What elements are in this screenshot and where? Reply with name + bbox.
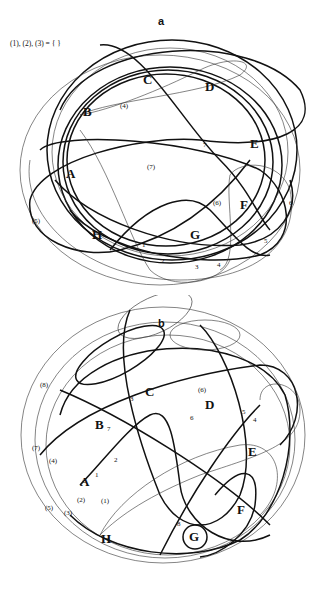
region-label-d: D [205,80,214,93]
panel-b-title: b [158,317,165,329]
dual-label-1: (1) [101,498,109,505]
region-label-h: H [101,532,111,545]
curve-label-2: 2 [114,457,118,464]
curve-label-1: 1 [142,242,146,249]
panel-b-curves [0,295,326,593]
panel-b: b (8) C (6) D 3 5 4 6 B 7 (7) E (4) 2 1 … [0,295,326,593]
panel-a-title: a [158,15,164,27]
curve-label-3: 3 [195,264,199,271]
region-label-g: G [190,228,200,241]
curve-label-5: 5 [242,409,246,416]
curve-label-3: 3 [130,396,134,403]
region-label-b: B [95,418,104,431]
dual-label-7: (7) [32,445,40,452]
region-label-a: A [66,167,75,180]
region-label-g: G [189,530,199,543]
dual-label-7: (7) [147,164,155,171]
region-label-a: A [80,475,89,488]
curve-label-2: 2 [161,258,165,265]
curve-label-7: 7 [203,142,207,149]
dual-label-8: (8) [40,382,48,389]
region-label-c: C [143,73,152,86]
region-label-c: C [145,385,154,398]
dual-label-6: (6) [198,387,206,394]
curve-label-4: 4 [217,262,221,269]
dual-label-5: (5) [32,218,40,225]
region-label-e: E [248,445,257,458]
panel-a: a (1), (2), (3) = { } C D B (4) 7 E (7) … [0,0,326,295]
curve-label-5: 5 [264,238,268,245]
region-label-f: F [240,198,248,211]
curve-label-8: 8 [177,521,181,528]
region-label-d: D [205,398,214,411]
dual-label-4: (4) [49,458,57,465]
curve-label-6: 6 [289,200,293,207]
curve-label-7: 7 [107,426,111,433]
region-label-b: B [83,105,92,118]
curve-label-4: 4 [253,417,257,424]
curve-label-1: 1 [95,472,99,479]
dual-label-4: (4) [120,103,128,110]
empty-set-note: (1), (2), (3) = { } [10,40,61,48]
region-label-e: E [250,137,259,150]
dual-label-2: (2) [77,497,85,504]
region-label-h: H [92,228,102,241]
region-label-f: F [237,503,245,516]
curve-label-6: 6 [190,415,194,422]
dual-label-3: (3) [64,510,72,517]
dual-label-5: (5) [45,505,53,512]
dual-label-6: (6) [213,200,221,207]
